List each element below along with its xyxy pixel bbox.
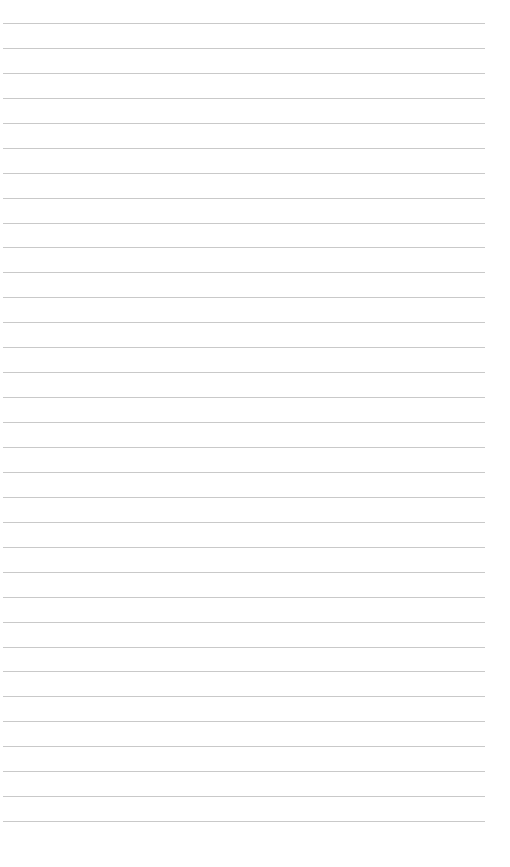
ruled-line <box>3 422 485 423</box>
ruled-line <box>3 322 485 323</box>
ruled-line <box>3 372 485 373</box>
ruled-line <box>3 721 485 722</box>
ruled-line <box>3 347 485 348</box>
ruled-line <box>3 771 485 772</box>
ruled-line <box>3 397 485 398</box>
ruled-line <box>3 671 485 672</box>
ruled-line <box>3 696 485 697</box>
ruled-line <box>3 198 485 199</box>
ruled-line <box>3 173 485 174</box>
ruled-line <box>3 746 485 747</box>
ruled-line <box>3 223 485 224</box>
ruled-line <box>3 447 485 448</box>
ruled-line <box>3 472 485 473</box>
ruled-line <box>3 98 485 99</box>
ruled-line <box>3 123 485 124</box>
ruled-line <box>3 572 485 573</box>
ruled-line <box>3 297 485 298</box>
ruled-line <box>3 23 485 24</box>
ruled-line <box>3 48 485 49</box>
ruled-line <box>3 272 485 273</box>
ruled-line <box>3 547 485 548</box>
ruled-line <box>3 796 485 797</box>
ruled-line <box>3 73 485 74</box>
ruled-line <box>3 497 485 498</box>
ruled-line <box>3 522 485 523</box>
lined-paper-sheet <box>0 0 510 867</box>
ruled-line <box>3 821 485 822</box>
ruled-line <box>3 148 485 149</box>
ruled-line <box>3 597 485 598</box>
ruled-line <box>3 622 485 623</box>
ruled-line <box>3 647 485 648</box>
ruled-line <box>3 247 485 248</box>
